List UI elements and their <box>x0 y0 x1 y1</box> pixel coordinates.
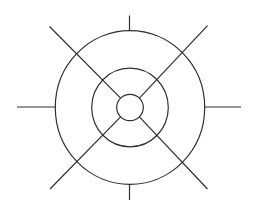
target-diagram <box>0 0 254 209</box>
